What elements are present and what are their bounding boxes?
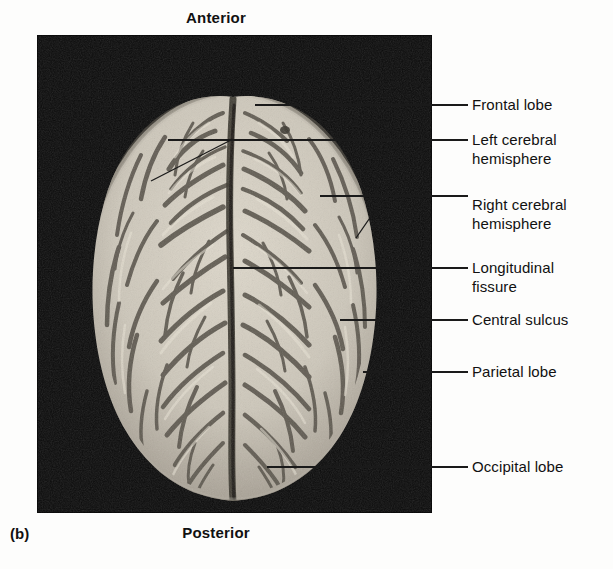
posterior-orientation-label: Posterior — [0, 524, 432, 541]
brain-photograph-image — [37, 35, 432, 513]
callout-frontal-lobe: Frontal lobe — [472, 95, 552, 114]
callout-occipital-lobe: Occipital lobe — [472, 457, 563, 476]
brain-superior-view-figure: Anterior — [0, 0, 613, 569]
anterior-orientation-label: Anterior — [0, 9, 432, 26]
callout-right-cerebral-hemisphere: Right cerebral hemisphere — [472, 195, 567, 233]
panel-letter-label: (b) — [10, 525, 29, 542]
brain-photograph-panel — [37, 35, 432, 513]
callout-left-cerebral-hemisphere: Left cerebral hemisphere — [472, 130, 557, 168]
callout-central-sulcus: Central sulcus — [472, 310, 568, 329]
callout-parietal-lobe: Parietal lobe — [472, 362, 557, 381]
callout-longitudinal-fissure: Longitudinal fissure — [472, 258, 554, 296]
